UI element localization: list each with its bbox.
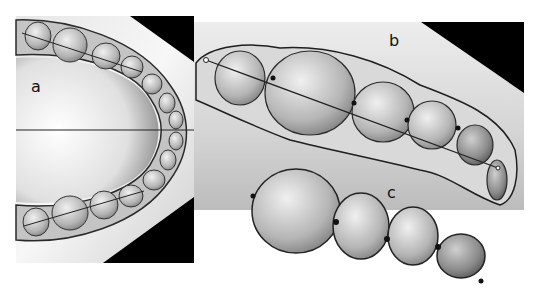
panel-a-label: a bbox=[31, 79, 41, 95]
panel-c-label: c bbox=[387, 185, 396, 201]
panel-b bbox=[194, 22, 524, 210]
figure-canvas bbox=[0, 0, 537, 293]
panel-b-label: b bbox=[389, 33, 399, 49]
panel-a bbox=[16, 16, 194, 263]
